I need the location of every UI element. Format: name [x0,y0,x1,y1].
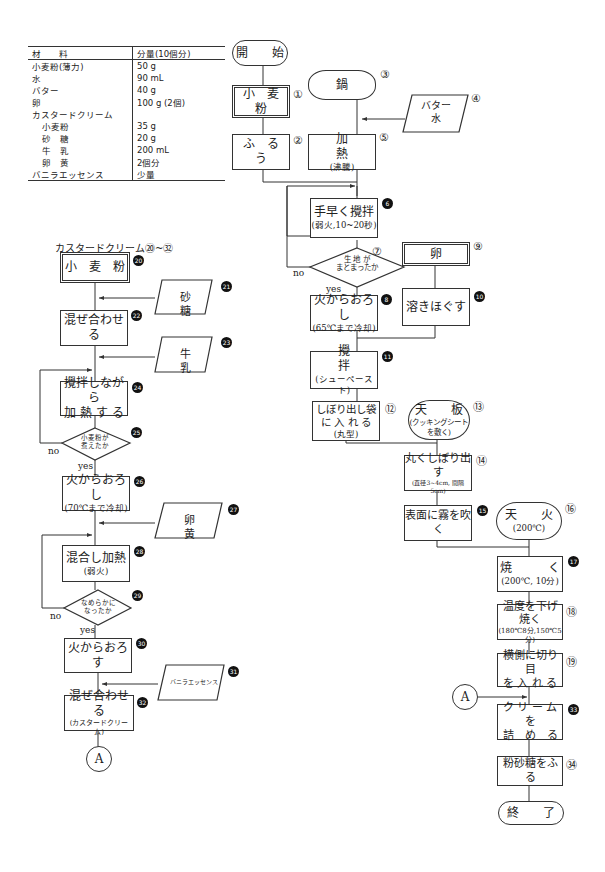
step-number-18: ⑱ [566,603,577,619]
step-2-sift: ふ る う [232,134,290,170]
step-13-sub2: を敷く) [427,428,451,437]
step-19-line1: 横側に切り目 [498,649,562,677]
step-number-15: 15 [477,505,488,516]
step-17-bake: 焼 く(200℃, 10分) [497,556,563,592]
step-number-34: ㉞ [566,756,577,772]
step-4-text: バター水 [412,100,460,125]
step-15-mist: 表面に霧を吹く [404,505,472,541]
step-number-17: 17 [568,556,579,567]
step-number-1: ① [293,88,303,101]
step-13-baking-tray: 天 板(クッキングシートを敷く) [408,400,470,440]
step-1-flour: 小 麦 粉 [232,85,290,118]
step-20-label: 小 麦 粉 [65,260,125,275]
step-17-label: 焼 く [500,561,560,576]
step-27-egg-yolk: 卵 黄 [162,514,216,542]
step-25-no-label: no [48,446,59,456]
step-31-vanilla: バニラエッセンス [166,678,222,686]
step-29-yes-label: yes [80,625,95,635]
step-3-label: 鍋 [336,78,348,93]
step-26-label: 火からおろし [63,473,129,503]
step-25-line2: 煮えたか [70,441,120,451]
step-20-flour: 小 麦 粉 [60,252,130,283]
step-number-6: 6 [382,198,393,209]
step-15-label: 表面に霧を吹く [405,509,471,537]
step-32-label: 混ぜ合わせる [65,689,133,719]
step-number-21: 21 [221,281,232,292]
step-16-sub: (200℃) [513,523,545,534]
connector-a-custard: A [86,746,112,772]
step-19-line2: を 入 れ る [503,677,558,691]
step-number-24: 24 [132,382,143,393]
step-28-sub: (弱火) [84,566,109,577]
step-13-sub1: (クッキングシート [410,418,469,427]
step-11-mix: 攪 拌(シューペースト) [310,351,378,389]
step-number-19: ⑲ [566,653,577,669]
step-14-pipe-round: 丸くしぼり出す(直径3~4cm, 間隔5cm) [404,455,472,491]
step-number-8: 8 [381,294,392,305]
step-30-remove-heat: 火からおろす [64,638,132,673]
step-5-heat: 加 熱(沸騰) [308,134,376,170]
step-number-22: 22 [131,310,142,321]
step-29-no-label: no [50,611,61,621]
step-number-10: 10 [474,291,485,302]
step-4-line2: 水 [412,113,460,126]
step-number-16: ⑯ [565,500,576,516]
step-number-5: ⑤ [379,131,389,144]
step-number-2: ② [293,134,303,147]
step-22-label: 混ぜ合わせる [61,313,127,343]
connector-a-custard-label: A [95,752,104,766]
step-32-sub: (カスタードクリーム) [65,719,133,737]
step-number-9: ⑨ [473,240,483,253]
start-label: 開 始 [236,46,284,61]
step-13-label: 天 板 [415,403,463,418]
step-17-sub: (200℃, 10分) [501,576,559,587]
step-number-4: ④ [471,92,481,105]
step-10-beat: 溶きほぐす [402,288,470,326]
step-number-7: ⑦ [372,245,382,258]
step-33-line1: ク リ ー ム を [498,701,562,729]
step-8-sub: (65℃まで冷却) [313,323,376,334]
step-19-cut-side: 横側に切り目を 入 れ る [497,653,563,687]
step-number-13: ⑬ [473,398,484,414]
step-8-remove-heat: 火からおろし(65℃まで冷却) [310,295,378,331]
step-number-30: 30 [136,638,147,649]
step-34-powdered-sugar: 粉砂糖をふる [497,756,563,786]
step-24-stir-heat: 攪拌しながら加 熱 す る [60,381,128,416]
step-number-23: 23 [221,337,232,348]
step-12-line1: しぼり出し袋 [316,403,376,416]
step-16-oven: 天 火(200℃) [496,502,562,540]
step-14-label: 丸くしぼり出す [405,452,471,480]
step-11-label: 攪 拌 [311,344,377,374]
start-terminal: 開 始 [232,40,288,66]
step-6-sub: (弱火,10~20秒) [311,220,376,231]
step-30-label: 火からおろす [65,641,131,671]
step-32-mix-custard: 混ぜ合わせる(カスタードクリーム) [64,695,134,731]
step-1-label: 小 麦 粉 [235,87,287,117]
step-14-sub: (直径3~4cm, 間隔5cm) [405,479,471,494]
step-9-egg: 卵 [402,242,470,266]
end-label: 終 了 [507,806,555,821]
step-number-14: ⑭ [476,452,487,468]
step-number-12: ⑫ [385,400,396,416]
step-22-mix: 混ぜ合わせる [60,310,128,346]
step-7-line2: まとまったか [325,262,389,274]
step-34-label: 粉砂糖をふる [498,757,562,785]
step-6-stir: 手早く攪拌(弱火,10~20秒) [310,198,378,238]
step-number-29: 29 [132,590,143,601]
step-12-piping-bag: しぼり出し袋に 入 れ る(丸型) [312,401,380,441]
step-28-mix-heat: 混合し加熱(弱火) [62,545,130,582]
step-26-sub: (70℃まで冷却) [65,503,128,514]
step-12-line2: に 入 れ る [321,416,371,429]
step-21-sugar: 砂 糖 [160,291,210,319]
step-number-26: 26 [134,476,145,487]
step-23-milk: 牛 乳 [160,348,210,376]
step-33-line2: 詰 め る [503,729,558,743]
step-number-27: 27 [228,504,239,515]
step-25-question: 小麦粉が煮えたか [70,433,120,452]
step-number-3: ③ [380,68,390,81]
step-number-28: 28 [134,546,145,557]
step-5-sub: (沸騰) [330,162,355,173]
connector-a-main: A [452,684,478,710]
step-number-20: 20 [133,255,144,266]
step-number-25: 25 [131,427,142,438]
